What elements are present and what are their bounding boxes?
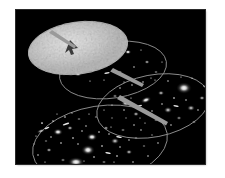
astronomy-figure-panel bbox=[16, 10, 205, 164]
figure-root: Hierarchical zoom-in sequence of four ov… bbox=[0, 0, 225, 178]
scene-canvas bbox=[16, 10, 205, 164]
